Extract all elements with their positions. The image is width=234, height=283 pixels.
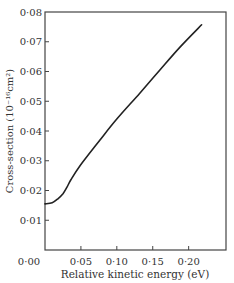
y-tick-label: 0·02 xyxy=(20,185,42,196)
y-tick-label: 0·07 xyxy=(20,36,42,47)
plot-frame xyxy=(45,12,226,250)
origin-label: 0·00 xyxy=(18,256,40,267)
y-tick-label: 0·03 xyxy=(20,155,42,166)
chart: 0·050·100·150·20 0·010·020·030·040·050·0… xyxy=(0,0,234,283)
x-axis-label: Relative kinetic energy (eV) xyxy=(61,268,209,280)
y-tick-label: 0·05 xyxy=(20,96,42,107)
x-axis-ticks: 0·050·100·150·20 xyxy=(70,246,200,267)
y-tick-label: 0·08 xyxy=(20,7,42,18)
x-tick-label: 0·05 xyxy=(70,256,92,267)
cross-section-curve xyxy=(45,25,202,204)
y-tick-label: 0·04 xyxy=(20,126,42,137)
x-tick-label: 0·15 xyxy=(142,256,164,267)
x-tick-label: 0·10 xyxy=(106,256,128,267)
y-axis-label: Cross-section (10⁻¹⁶cm²) xyxy=(4,69,15,194)
x-tick-label: 0·20 xyxy=(178,256,200,267)
y-tick-label: 0·01 xyxy=(20,215,42,226)
y-tick-label: 0·06 xyxy=(20,66,42,77)
